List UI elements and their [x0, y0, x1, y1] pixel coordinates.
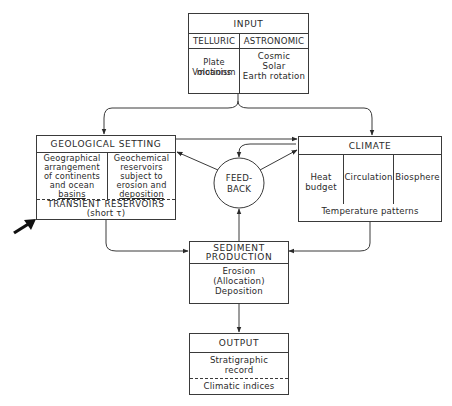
stratigraphic-record: Stratigraphic [190, 355, 288, 365]
arrow-feedback-to-climate [260, 150, 297, 170]
arrow-input-to-geological [104, 101, 238, 134]
geological-setting-box: GEOLOGICAL SETTING Geographical arrangem… [36, 135, 176, 220]
divider [299, 154, 441, 155]
telluric-header: TELLURIC [189, 36, 239, 46]
climate-biosphere: Biosphere [394, 172, 441, 182]
geochemical-line: deposition [108, 189, 175, 199]
geographical-line: basins [37, 189, 107, 199]
astronomic-item: Earth rotation [240, 71, 308, 81]
dashed-divider [190, 378, 288, 379]
pointer-arrow-icon [14, 219, 36, 233]
sediment-item: Deposition [190, 286, 288, 296]
feedback-label: FEED- [214, 173, 264, 183]
climate-heat-budget: budget [299, 182, 343, 192]
astronomic-item: Solar [240, 61, 308, 71]
divider [189, 48, 308, 49]
astronomic-item: Cosmic [240, 51, 308, 61]
climate-heat-budget: Heat [299, 172, 343, 182]
feedback-label: BACK [214, 184, 264, 194]
output-title: OUTPUT [190, 338, 288, 348]
divider [190, 263, 288, 264]
sediment-production-box: SEDIMENT PRODUCTION Erosion (Allocation)… [189, 241, 289, 304]
input-title: INPUT [189, 19, 308, 29]
climatic-indices: Climatic indices [190, 381, 288, 391]
geological-setting-title: GEOLOGICAL SETTING [37, 139, 175, 149]
arrow-input-to-climate [238, 101, 372, 135]
arrow-climate-to-sediment [289, 221, 370, 251]
divider [189, 33, 308, 34]
sediment-item: Erosion [190, 266, 288, 276]
stratigraphic-record: record [190, 365, 288, 375]
sediment-title: PRODUCTION [190, 252, 288, 262]
feedback-node [214, 158, 264, 208]
climate-circulation: Circulation [344, 172, 393, 182]
temperature-patterns: Temperature patterns [299, 206, 441, 216]
input-box: INPUT TELLURIC ASTRONOMIC Plate motions … [188, 13, 309, 94]
output-box: OUTPUT Stratigraphic record Climatic ind… [189, 333, 289, 395]
arrow-geological-to-sediment [106, 220, 188, 251]
climate-title: CLIMATE [299, 141, 441, 151]
transient-reservoirs-sub: (short τ) [37, 208, 175, 218]
arrow-feedback-to-geological [177, 152, 218, 170]
divider [190, 352, 288, 353]
climate-box: CLIMATE Heat budget Circulation Biospher… [298, 136, 442, 222]
telluric-item: Volcanism [189, 67, 239, 77]
sediment-item: (Allocation) [190, 276, 288, 286]
astronomic-header: ASTRONOMIC [240, 36, 308, 46]
